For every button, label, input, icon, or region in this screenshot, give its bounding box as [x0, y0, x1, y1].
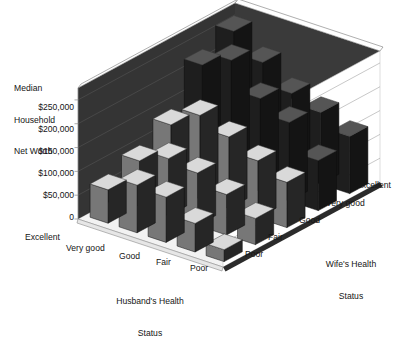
- z-tick-good: Good: [299, 215, 320, 226]
- x-axis-title: Husband's Health Status: [85, 275, 215, 340]
- z-axis-title-line-1: Wife's Health: [295, 259, 407, 270]
- z-axis-title: Wife's Health Status: [295, 238, 407, 322]
- y-axis-title: Median Household Net Worth: [14, 62, 86, 178]
- z-tick-poor: Poor: [245, 249, 263, 260]
- x-tick-very-good: Very good: [66, 243, 105, 254]
- x-tick-good: Good: [119, 251, 140, 262]
- z-axis-title-line-2: Status: [295, 291, 407, 302]
- y-tick-50000: $50,000: [6, 190, 74, 201]
- y-tick-200000: $200,000: [6, 124, 74, 135]
- y-tick-0: 0: [6, 212, 74, 223]
- x-tick-fair: Fair: [156, 257, 171, 268]
- y-tick-250000: $250,000: [6, 102, 74, 113]
- y-tick-150000: $150,000: [6, 146, 74, 157]
- z-tick-very-good: Very good: [326, 198, 365, 209]
- z-tick-fair: Fair: [268, 232, 283, 243]
- bar-front-face: [90, 184, 108, 223]
- y-axis-title-line-1: Median: [14, 83, 86, 94]
- z-tick-excellent: Excellent: [356, 180, 391, 191]
- x-axis-title-line-1: Husband's Health: [85, 296, 215, 307]
- x-axis-title-line-2: Status: [85, 328, 215, 339]
- x-tick-poor: Poor: [190, 263, 208, 274]
- x-tick-excellent: Excellent: [25, 232, 60, 243]
- y-tick-100000: $100,000: [6, 168, 74, 179]
